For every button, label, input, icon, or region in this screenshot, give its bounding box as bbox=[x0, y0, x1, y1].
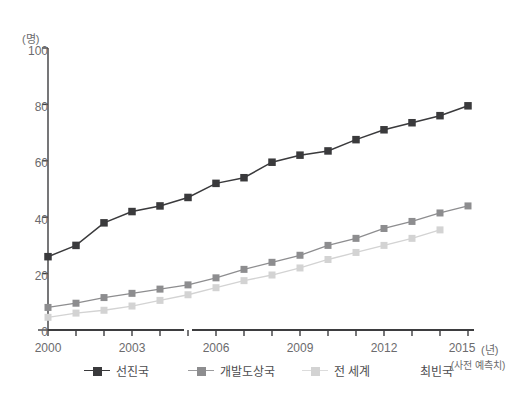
series-marker bbox=[269, 272, 276, 279]
x-tick-label-2000: 2000 bbox=[35, 341, 62, 355]
legend-label-least-developed: 최빈국 bbox=[420, 362, 453, 379]
legend-item-least-developed[interactable]: 최빈국 bbox=[420, 362, 453, 379]
series-marker bbox=[465, 202, 472, 209]
x-axis-unit-label: (년) bbox=[481, 341, 498, 357]
series-marker bbox=[185, 291, 192, 298]
series-0 bbox=[44, 102, 472, 260]
series-marker bbox=[157, 286, 164, 293]
legend-item-developing[interactable]: 개발도상국 bbox=[188, 362, 275, 379]
series-marker bbox=[437, 226, 444, 233]
series-marker bbox=[268, 158, 276, 166]
x-tick-label-2009: 2009 bbox=[287, 341, 314, 355]
y-tick-label-0: 0 bbox=[18, 325, 48, 339]
series-marker bbox=[409, 235, 416, 242]
series-marker bbox=[129, 303, 136, 310]
series-marker bbox=[101, 294, 108, 301]
series-marker bbox=[241, 266, 248, 273]
x-tick-label-2015: 2015 bbox=[449, 341, 476, 355]
series-marker bbox=[241, 277, 248, 284]
series-marker bbox=[408, 119, 416, 127]
series-marker bbox=[381, 225, 388, 232]
series-marker bbox=[324, 147, 332, 155]
legend-swatch-developing bbox=[188, 366, 214, 376]
series-marker bbox=[436, 112, 444, 120]
x-tick-label-2012: 2012 bbox=[371, 341, 398, 355]
series-marker bbox=[269, 259, 276, 266]
series-marker bbox=[409, 218, 416, 225]
legend-swatch-developed bbox=[84, 366, 110, 376]
series-marker bbox=[213, 284, 220, 291]
legend-swatch-world bbox=[302, 366, 328, 376]
series-marker bbox=[184, 194, 192, 202]
series-marker bbox=[437, 209, 444, 216]
series-marker bbox=[381, 242, 388, 249]
series-marker bbox=[353, 235, 360, 242]
series-marker bbox=[297, 264, 304, 271]
y-tick-label-100: 100 bbox=[18, 44, 48, 58]
series-1 bbox=[45, 202, 472, 311]
x-tick-label-2006: 2006 bbox=[203, 341, 230, 355]
series-marker bbox=[185, 281, 192, 288]
series-marker bbox=[212, 180, 220, 188]
chart-legend: 선진국 개발도상국 전 세계 최빈국 bbox=[0, 358, 530, 384]
series-marker bbox=[325, 242, 332, 249]
series-marker bbox=[45, 304, 52, 311]
series-2 bbox=[45, 226, 444, 320]
series-marker bbox=[240, 174, 248, 182]
series-marker bbox=[296, 151, 304, 159]
chart-container: (명) 100 80 60 40 20 0 2000 2003 2006 200… bbox=[0, 0, 530, 402]
series-marker bbox=[45, 314, 52, 321]
y-tick-label-80: 80 bbox=[18, 100, 48, 114]
series-marker bbox=[129, 290, 136, 297]
series-line bbox=[48, 106, 468, 257]
series-marker bbox=[353, 249, 360, 256]
series-marker bbox=[352, 136, 360, 144]
series-marker bbox=[100, 219, 108, 227]
series-marker bbox=[156, 202, 164, 210]
legend-label-developing: 개발도상국 bbox=[220, 362, 275, 379]
series-marker bbox=[325, 256, 332, 263]
series-marker bbox=[213, 274, 220, 281]
series-marker bbox=[73, 300, 80, 307]
series-marker bbox=[72, 242, 80, 250]
y-tick-label-40: 40 bbox=[18, 213, 48, 227]
legend-item-world[interactable]: 전 세계 bbox=[302, 362, 370, 379]
legend-label-world: 전 세계 bbox=[334, 362, 370, 379]
legend-label-developed: 선진국 bbox=[116, 362, 149, 379]
y-tick-label-20: 20 bbox=[18, 269, 48, 283]
series-marker bbox=[464, 102, 472, 110]
x-tick-label-2003: 2003 bbox=[119, 341, 146, 355]
series-marker bbox=[380, 126, 388, 134]
series-marker bbox=[101, 307, 108, 314]
series-line bbox=[48, 206, 468, 308]
series-marker bbox=[128, 208, 136, 216]
y-tick-label-60: 60 bbox=[18, 156, 48, 170]
series-marker bbox=[44, 253, 52, 261]
legend-item-developed[interactable]: 선진국 bbox=[84, 362, 149, 379]
series-marker bbox=[297, 252, 304, 259]
series-marker bbox=[73, 310, 80, 317]
series-marker bbox=[157, 297, 164, 304]
